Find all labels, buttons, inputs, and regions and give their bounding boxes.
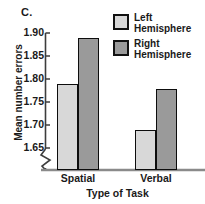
legend-label-right-hemisphere: Right Hemisphere	[134, 39, 191, 60]
legend-item-left-hemisphere: Left Hemisphere	[113, 13, 205, 34]
y-tick-1.65: 1.65	[18, 142, 44, 153]
x-axis-title: Type of Task	[0, 187, 205, 199]
legend-item-right-hemisphere: Right Hemisphere	[113, 39, 205, 60]
legend-swatch-right-hemisphere	[113, 40, 129, 56]
bar-verbal-right-hemisphere	[156, 89, 177, 170]
y-tick-1.80: 1.80	[18, 73, 44, 84]
y-tick-1.85: 1.85	[18, 50, 44, 61]
chart-figure: C. Mean number errors 1.90 1.85 1.80 1.7…	[0, 0, 205, 204]
y-tick-1.75: 1.75	[18, 96, 44, 107]
bar-spatial-right-hemisphere	[78, 38, 99, 170]
y-tick-label: 1.80	[18, 73, 44, 84]
chart-legend: Left Hemisphere Right Hemisphere	[113, 13, 205, 65]
legend-label-left-hemisphere: Left Hemisphere	[134, 13, 191, 34]
y-tick-1.90: 1.90	[18, 27, 44, 38]
y-tick-1.70: 1.70	[18, 119, 44, 130]
x-tick-label-verbal: Verbal	[126, 172, 186, 184]
y-tick-label: 1.90	[18, 27, 44, 38]
bar-spatial-left-hemisphere	[57, 84, 78, 170]
y-tick-label: 1.65	[18, 142, 44, 153]
panel-label: C.	[21, 6, 32, 18]
legend-swatch-left-hemisphere	[113, 14, 129, 30]
y-tick-label: 1.70	[18, 119, 44, 130]
y-tick-label: 1.85	[18, 50, 44, 61]
y-tick-label: 1.75	[18, 96, 44, 107]
bar-verbal-left-hemisphere	[135, 130, 156, 170]
x-tick-label-spatial: Spatial	[48, 172, 108, 184]
